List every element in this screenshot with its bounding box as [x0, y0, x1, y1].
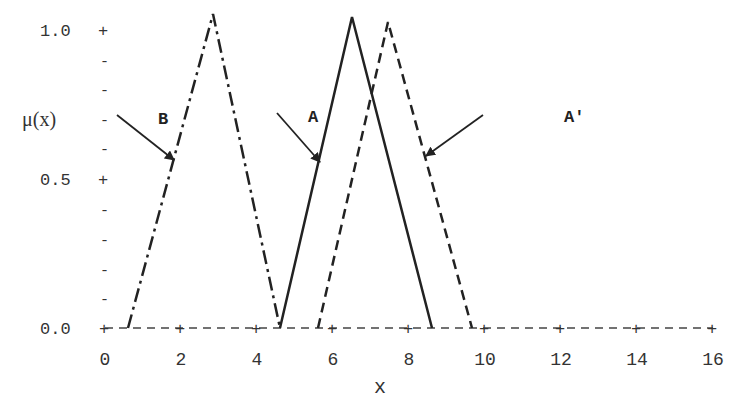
x-tick-major: + [327, 320, 337, 339]
y-tick-minor: - [100, 83, 109, 100]
x-tick-label: 12 [550, 350, 572, 370]
y-tick-label-0.5: 0.5 [40, 171, 71, 190]
x-tick-major: + [175, 320, 185, 339]
membership-chart: 1.0 + - - - - 0.5 + - - - - 0.0 μ(x) + +… [0, 0, 751, 412]
y-tick-major: + [98, 22, 108, 41]
x-tick-label: 8 [404, 350, 415, 370]
series-b-line [128, 14, 280, 328]
x-tick-major: + [403, 320, 413, 339]
x-tick-major: + [99, 320, 109, 339]
x-tick-label: 6 [328, 350, 339, 370]
y-tick-minor: - [100, 203, 109, 220]
arrow-a-prime-icon [426, 115, 483, 156]
y-axis: 1.0 + - - - - 0.5 + - - - - 0.0 μ(x) [22, 22, 109, 339]
label-a-prime: A' [564, 108, 584, 127]
x-tick-major: + [555, 320, 565, 339]
y-tick-minor: - [100, 113, 109, 130]
y-tick-minor: - [100, 263, 109, 280]
y-tick-minor: - [100, 292, 109, 309]
x-tick-label: 14 [626, 350, 648, 370]
y-tick-label-1.0: 1.0 [40, 22, 71, 41]
x-tick-major: + [707, 320, 717, 339]
x-tick-major: + [251, 320, 261, 339]
y-tick-minor: - [100, 142, 109, 159]
y-tick-label-0.0: 0.0 [40, 320, 71, 339]
x-tick-label: 4 [252, 350, 263, 370]
y-tick-minor: - [100, 54, 109, 71]
x-tick-label: 2 [176, 350, 187, 370]
x-tick-label: 16 [702, 350, 724, 370]
x-tick-label: 0 [100, 350, 111, 370]
label-a: A [308, 108, 319, 127]
x-tick-major: + [631, 320, 641, 339]
label-b: B [158, 110, 168, 129]
x-axis-label: x [374, 376, 386, 399]
series-a-line [280, 17, 432, 328]
x-tick-major: + [479, 320, 489, 339]
x-axis: + + + + + + + + + 0 2 4 6 8 10 12 14 16 … [99, 320, 724, 399]
y-tick-minor: - [100, 233, 109, 250]
x-tick-label: 10 [474, 350, 496, 370]
y-tick-major: + [98, 171, 108, 190]
y-axis-label: μ(x) [22, 108, 56, 131]
